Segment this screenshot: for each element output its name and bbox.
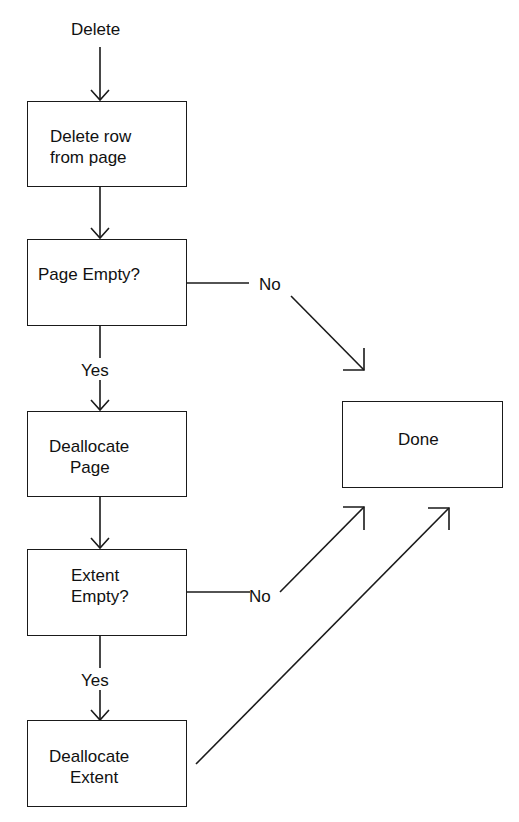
node-line: Done: [398, 429, 439, 450]
node-line: Extent: [49, 767, 129, 788]
node-delete-row-text: Delete row from page: [50, 126, 131, 168]
edge-label-yes: Yes: [81, 361, 109, 381]
node-line: Delete row: [50, 126, 131, 147]
node-line: Page Empty?: [38, 264, 140, 285]
edge-page-empty-no-diagonal: [291, 296, 364, 370]
node-done-text: Done: [398, 429, 439, 450]
start-label: Delete: [71, 20, 120, 40]
edge-label-no: No: [259, 275, 281, 295]
edge-label-no: No: [249, 587, 271, 607]
node-dealloc-extent: Deallocate Extent: [27, 720, 187, 807]
node-line: Deallocate: [49, 746, 129, 767]
node-line: Page: [49, 457, 129, 478]
node-dealloc-page: Deallocate Page: [27, 411, 187, 497]
node-extent-empty-text: Extent Empty?: [71, 565, 129, 607]
node-line: Empty?: [71, 586, 129, 607]
node-extent-empty: Extent Empty?: [27, 549, 187, 636]
node-page-empty: Page Empty?: [27, 239, 187, 326]
node-dealloc-extent-text: Deallocate Extent: [49, 746, 129, 788]
node-line: from page: [50, 147, 131, 168]
edge-dealloc-extent-to-done: [196, 508, 449, 764]
edge-label-yes: Yes: [81, 671, 109, 691]
node-line: Deallocate: [49, 436, 129, 457]
node-line: Extent: [71, 565, 129, 586]
node-delete-row: Delete row from page: [27, 101, 187, 187]
edge-extent-empty-no-diagonal: [280, 507, 364, 592]
node-page-empty-text: Page Empty?: [38, 264, 140, 285]
node-done: Done: [342, 401, 503, 488]
node-dealloc-page-text: Deallocate Page: [49, 436, 129, 478]
